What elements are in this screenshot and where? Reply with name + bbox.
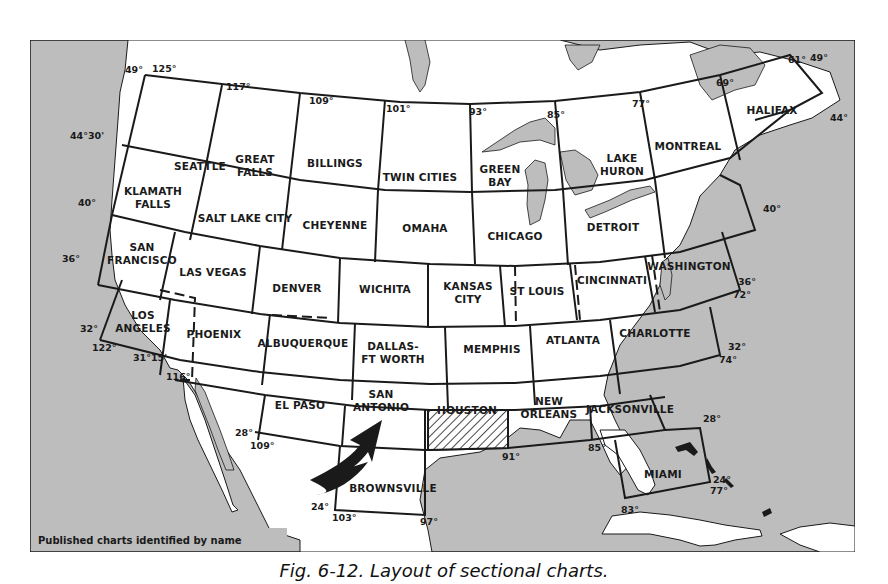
chart-label: WICHITA xyxy=(359,283,411,295)
chart-label: EL PASO xyxy=(275,399,325,411)
figure-caption: Fig. 6-12. Layout of sectional charts. xyxy=(0,560,888,581)
chart-label: HALIFAX xyxy=(746,104,797,116)
chart-label: MEMPHIS xyxy=(463,343,520,355)
coordinate-label: 32° xyxy=(728,341,746,352)
coordinate-label: 93° xyxy=(469,106,487,117)
coordinate-label: 74° xyxy=(719,354,737,365)
coordinate-label: 40° xyxy=(763,203,781,214)
coordinate-label: 49° xyxy=(810,52,828,63)
chart-label: CHICAGO xyxy=(487,230,542,242)
coordinate-label: 77° xyxy=(710,485,728,496)
chart-label: PHOENIX xyxy=(187,328,242,340)
coordinate-label: 28° xyxy=(703,413,721,424)
legend-text: Published charts identified by name xyxy=(38,535,242,546)
chart-label: SALT LAKE CITY xyxy=(198,212,293,224)
coordinate-label: 44°30' xyxy=(70,130,104,141)
coordinate-label: 44° xyxy=(830,112,848,123)
coordinate-label: 77° xyxy=(632,98,650,109)
chart-label: MIAMI xyxy=(644,468,682,480)
chart-label: CHARLOTTE xyxy=(619,327,691,339)
coordinate-label: 125° xyxy=(152,63,177,74)
chart-label: ALBUQUERQUE xyxy=(258,337,349,349)
coordinate-label: 109° xyxy=(309,95,334,106)
chart-label: OMAHA xyxy=(402,222,448,234)
coordinate-label: 31°15' xyxy=(133,352,167,363)
coordinate-label: 24° xyxy=(311,501,329,512)
chart-label: LAS VEGAS xyxy=(179,266,246,278)
houston-chart-highlight xyxy=(428,410,508,450)
coordinate-label: 69° xyxy=(716,77,734,88)
chart-label: BILLINGS xyxy=(307,157,363,169)
coordinate-label: 97° xyxy=(420,516,438,527)
coordinate-label: 83° xyxy=(621,504,639,515)
chart-label: SEATTLE xyxy=(174,160,226,172)
chart-label: ST LOUIS xyxy=(509,285,564,297)
coordinate-label: 122° xyxy=(92,342,117,353)
coordinate-label: 36° xyxy=(738,276,756,287)
coordinate-label: 117° xyxy=(226,81,251,92)
coordinate-label: 36° xyxy=(62,253,80,264)
coordinate-label: 72° xyxy=(733,289,751,300)
chart-label: BROWNSVILLE xyxy=(349,482,437,494)
chart-label: TWIN CITIES xyxy=(383,171,458,183)
chart-label: WASHINGTON xyxy=(647,260,731,272)
sectional-chart-layout-map: SEATTLEGREATFALLSBILLINGSTWIN CITIESGREE… xyxy=(30,40,855,552)
chart-label: CINCINNATI xyxy=(577,274,647,286)
chart-label: ATLANTA xyxy=(546,334,601,346)
chart-label: CHEYENNE xyxy=(303,219,368,231)
coordinate-label: 101° xyxy=(386,103,411,114)
chart-label: DENVER xyxy=(272,282,321,294)
chart-label: LAKEHURON xyxy=(600,152,644,177)
coordinate-label: 61° xyxy=(788,54,806,65)
chart-label: DETROIT xyxy=(587,221,640,233)
chart-label: HOUSTON xyxy=(437,404,497,416)
coordinate-label: 91° xyxy=(502,451,520,462)
coordinate-label: 28° xyxy=(235,427,253,438)
coordinate-label: 24° xyxy=(713,474,731,485)
coordinate-label: 85° xyxy=(547,109,565,120)
coordinate-label: 49° xyxy=(125,64,143,75)
coordinate-label: 32° xyxy=(80,323,98,334)
coordinate-label: 85° xyxy=(588,442,606,453)
chart-label: GREATFALLS xyxy=(235,153,275,178)
coordinate-label: 103° xyxy=(332,512,357,523)
chart-label: MONTREAL xyxy=(655,140,722,152)
chart-label: DALLAS-FT WORTH xyxy=(361,340,425,365)
coordinate-label: 116° xyxy=(166,371,191,382)
chart-label: JACKSONVILLE xyxy=(585,403,674,415)
coordinate-label: 109° xyxy=(250,440,275,451)
coordinate-label: 40° xyxy=(78,197,96,208)
